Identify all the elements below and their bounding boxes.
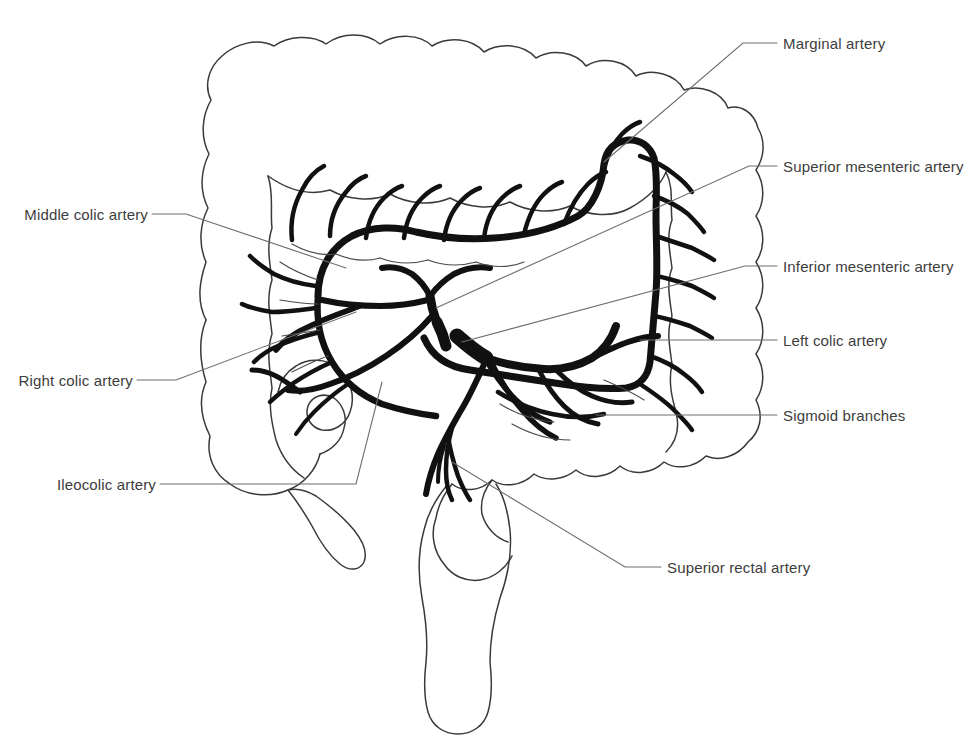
colon-arterial-supply-diagram (0, 0, 971, 755)
vasa-recta-transverse-5 (444, 188, 480, 240)
sigmoid-colon-outline-lower (481, 480, 508, 542)
leader-marginal-artery (604, 43, 777, 162)
label-inferior-mesenteric-artery: Inferior mesenteric artery (783, 259, 954, 274)
artery-group (242, 122, 714, 500)
vasa-recta-transverse-6 (484, 186, 520, 238)
colon-outline-group (200, 35, 763, 734)
label-ileocolic-artery: Ileocolic artery (30, 477, 156, 492)
vasa-recta-descending-3 (656, 236, 714, 260)
vasa-recta-ascending-1 (250, 256, 316, 286)
right-colic-artery (322, 300, 428, 306)
inferior-mesenteric-artery-trunk (486, 326, 616, 369)
sigmoid-colon-outline (433, 484, 512, 580)
leader-inferior-mesenteric-artery (462, 266, 777, 342)
middle-colic-artery (382, 267, 430, 296)
vasa-recta-transverse-2 (330, 176, 366, 236)
vasa-recta-ascending-2 (242, 304, 316, 312)
label-marginal-artery: Marginal artery (783, 36, 885, 51)
leader-line-group (137, 43, 777, 567)
arcade-thin-7 (280, 300, 318, 304)
arcade-thin-4 (428, 260, 476, 265)
vasa-recta-descending-7 (640, 384, 692, 430)
leader-middle-colic-artery (152, 214, 346, 268)
vasa-recta-descending-2 (654, 196, 704, 232)
vasa-recta-transverse-1 (291, 166, 324, 240)
label-middle-colic-artery: Middle colic artery (18, 207, 148, 222)
label-left-colic-artery: Left colic artery (783, 333, 887, 348)
arcade-thin-2 (336, 254, 380, 260)
vasa-recta-descending-6 (650, 356, 702, 392)
label-superior-mesenteric-artery: Superior mesenteric artery (783, 159, 964, 174)
figure-canvas: Marginal artery Superior mesenteric arte… (0, 0, 971, 755)
label-sigmoid-branches: Sigmoid branches (783, 408, 905, 423)
vasa-recta-descending-1 (640, 156, 692, 192)
superior-mesenteric-artery-stem (437, 322, 446, 346)
middle-colic-artery-right-limb (430, 267, 490, 296)
appendix-outline (288, 489, 365, 569)
vasa-recta-descending-5 (654, 316, 712, 338)
superior-rectal-artery-branch-2 (448, 436, 470, 500)
cecum-outline (201, 320, 320, 495)
leader-superior-rectal-artery (452, 462, 661, 567)
label-superior-rectal-artery: Superior rectal artery (667, 560, 810, 575)
arcade-thin-3 (380, 258, 428, 263)
label-right-colic-artery: Right colic artery (18, 373, 133, 388)
rectum-outline (419, 484, 510, 734)
colon-outer-wall (200, 35, 763, 490)
